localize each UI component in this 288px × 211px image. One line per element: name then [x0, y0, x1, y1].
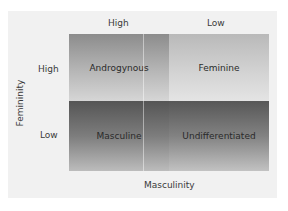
row-label-high: High	[38, 64, 59, 74]
cell-undifferentiated-label: Undifferentiated	[182, 131, 255, 141]
column-label-low: Low	[207, 18, 225, 28]
y-axis-label: Femininity	[15, 80, 25, 127]
cell-masculine: Masculine	[69, 101, 169, 171]
cell-androgynous: Androgynous	[69, 34, 169, 101]
column-label-high: High	[108, 18, 129, 28]
row-label-low: Low	[40, 130, 58, 140]
cell-feminine-label: Feminine	[199, 63, 240, 73]
cell-undifferentiated: Undifferentiated	[169, 101, 269, 171]
x-axis-label: Masculinity	[144, 180, 195, 190]
cell-feminine: Feminine	[169, 34, 269, 101]
cell-androgynous-label: Androgynous	[89, 63, 148, 73]
cell-masculine-label: Masculine	[97, 131, 142, 141]
divider-line	[143, 34, 144, 171]
